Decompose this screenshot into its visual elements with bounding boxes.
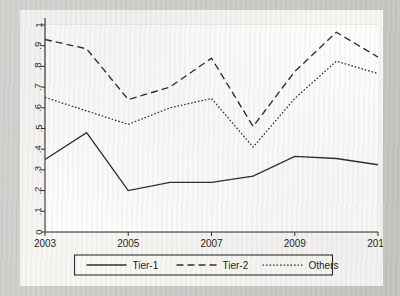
y-axis-tick-label: .8: [33, 62, 44, 70]
y-axis-tick-label: .9: [33, 42, 44, 50]
x-axis-tick-label: 2005: [117, 238, 140, 249]
y-axis-tick-label: .1: [33, 207, 44, 215]
y-axis-tick-label: 0: [33, 229, 44, 234]
plot-area-background: [45, 25, 378, 232]
scanned-page-background: 0.1.2.3.4.5.6.7.8.91 2003200520072009201…: [0, 0, 400, 296]
y-axis-tick-label: .5: [33, 125, 44, 133]
y-axis-tick-label: .7: [33, 83, 44, 91]
chart-legend[interactable]: Tier-1Tier-2Others: [75, 255, 339, 275]
y-axis-tick-label: .6: [33, 104, 44, 112]
legend-label-tier-2: Tier-2: [223, 260, 249, 271]
y-axis-tick-label: .2: [33, 187, 44, 195]
y-axis-tick-label: .4: [33, 145, 44, 153]
line-chart: 0.1.2.3.4.5.6.7.8.91 2003200520072009201…: [20, 10, 383, 286]
x-axis-tick-label: 2011: [367, 238, 383, 249]
legend-label-tier-1: Tier-1: [133, 260, 159, 271]
x-axis-tick-label: 2009: [284, 238, 307, 249]
legend-label-others: Others: [309, 260, 339, 271]
x-axis-tick-label: 2007: [200, 238, 223, 249]
y-axis-tick-label: 1: [33, 22, 44, 27]
x-axis-tick-label: 2003: [34, 238, 57, 249]
x-axis-ticks: 20032005200720092011: [34, 232, 383, 249]
figure-panel: 0.1.2.3.4.5.6.7.8.91 2003200520072009201…: [20, 10, 383, 286]
y-axis-ticks: 0.1.2.3.4.5.6.7.8.91: [33, 22, 46, 234]
y-axis-tick-label: .3: [33, 166, 44, 174]
